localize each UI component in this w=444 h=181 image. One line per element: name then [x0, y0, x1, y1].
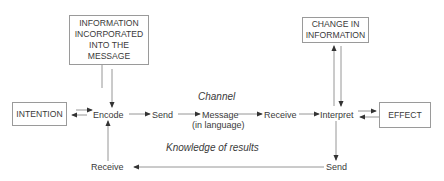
message-node: Message [202, 110, 239, 120]
information-incorporated-box: INFORMATION INCORPORATED INTO THE MESSAG… [69, 15, 149, 65]
receive-node-bottom: Receive [91, 162, 124, 172]
change-in-information-label: CHANGE IN INFORMATION [303, 19, 368, 41]
effect-box: EFFECT [379, 102, 431, 128]
message-sublabel: (in language) [192, 120, 245, 130]
encode-node: Encode [93, 110, 124, 120]
intention-box: INTENTION [12, 102, 67, 126]
change-in-information-box: CHANGE IN INFORMATION [302, 17, 369, 43]
knowledge-of-results-annotation: Knowledge of results [166, 143, 259, 153]
intention-label: INTENTION [16, 109, 62, 120]
receive-node-top: Receive [264, 110, 297, 120]
interpret-node: Interpret [320, 110, 354, 120]
send-node-top: Send [152, 110, 173, 120]
send-node-bottom: Send [326, 162, 347, 172]
information-incorporated-label: INFORMATION INCORPORATED INTO THE MESSAG… [70, 18, 148, 62]
channel-annotation: Channel [198, 92, 235, 102]
effect-label: EFFECT [388, 110, 421, 121]
